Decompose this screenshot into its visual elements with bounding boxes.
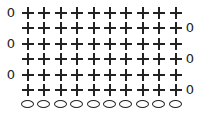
chain-stitch-icon [103, 100, 116, 108]
single-crochet-icon [169, 37, 183, 51]
single-crochet-icon [119, 52, 133, 66]
turning-chain-label: 0 [5, 68, 17, 82]
single-crochet-icon [54, 37, 68, 51]
turning-chain-label: 0 [5, 37, 17, 51]
chain-stitch-icon [119, 100, 132, 108]
single-crochet-icon [152, 52, 166, 66]
turning-chain-label: 0 [184, 83, 196, 97]
single-crochet-icon [103, 52, 117, 66]
chain-stitch-icon [152, 100, 165, 108]
single-crochet-icon [169, 68, 183, 82]
single-crochet-icon [54, 83, 68, 97]
single-crochet-icon [169, 6, 183, 20]
turning-chain-label: 0 [5, 6, 17, 20]
single-crochet-icon [21, 6, 35, 20]
chart-row: 0 [0, 83, 202, 97]
single-crochet-icon [103, 68, 117, 82]
single-crochet-icon [87, 6, 101, 20]
single-crochet-icon [119, 6, 133, 20]
single-crochet-icon [54, 68, 68, 82]
single-crochet-icon [119, 37, 133, 51]
chain-stitch-icon [37, 100, 50, 108]
single-crochet-icon [152, 37, 166, 51]
single-crochet-icon [70, 68, 84, 82]
single-crochet-icon [103, 83, 117, 97]
chart-row: 0 [0, 21, 202, 35]
single-crochet-icon [119, 83, 133, 97]
single-crochet-icon [70, 21, 84, 35]
chain-stitch-icon [70, 100, 83, 108]
chain-stitch-icon [54, 100, 67, 108]
single-crochet-icon [87, 83, 101, 97]
single-crochet-icon [70, 37, 84, 51]
single-crochet-icon [136, 52, 150, 66]
single-crochet-icon [37, 6, 51, 20]
single-crochet-icon [152, 21, 166, 35]
chain-stitch-icon [169, 100, 182, 108]
single-crochet-icon [152, 68, 166, 82]
single-crochet-icon [54, 52, 68, 66]
single-crochet-icon [169, 83, 183, 97]
single-crochet-icon [37, 83, 51, 97]
chain-stitch-icon [136, 100, 149, 108]
single-crochet-icon [37, 52, 51, 66]
single-crochet-icon [37, 68, 51, 82]
single-crochet-icon [119, 68, 133, 82]
single-crochet-icon [70, 6, 84, 20]
single-crochet-icon [21, 37, 35, 51]
chain-stitch-icon [21, 100, 34, 108]
single-crochet-icon [136, 21, 150, 35]
single-crochet-icon [37, 37, 51, 51]
chart-row: 0 [0, 6, 202, 20]
single-crochet-icon [21, 83, 35, 97]
single-crochet-icon [152, 6, 166, 20]
single-crochet-icon [103, 21, 117, 35]
single-crochet-icon [54, 21, 68, 35]
single-crochet-icon [70, 52, 84, 66]
single-crochet-icon [21, 21, 35, 35]
single-crochet-icon [136, 83, 150, 97]
chart-row: 0 [0, 68, 202, 82]
single-crochet-icon [169, 52, 183, 66]
single-crochet-icon [136, 68, 150, 82]
single-crochet-icon [21, 68, 35, 82]
single-crochet-icon [87, 52, 101, 66]
turning-chain-label: 0 [184, 21, 196, 35]
single-crochet-icon [103, 6, 117, 20]
single-crochet-icon [119, 21, 133, 35]
chain-stitch-icon [87, 100, 100, 108]
chart-row: 0 [0, 52, 202, 66]
single-crochet-icon [37, 21, 51, 35]
single-crochet-icon [103, 37, 117, 51]
single-crochet-icon [87, 21, 101, 35]
single-crochet-icon [87, 37, 101, 51]
chart-row: 0 [0, 37, 202, 51]
single-crochet-icon [87, 68, 101, 82]
single-crochet-icon [136, 37, 150, 51]
crochet-chart: 000000 [0, 0, 202, 116]
turning-chain-label: 0 [184, 52, 196, 66]
single-crochet-icon [70, 83, 84, 97]
single-crochet-icon [54, 6, 68, 20]
single-crochet-icon [169, 21, 183, 35]
single-crochet-icon [136, 6, 150, 20]
single-crochet-icon [21, 52, 35, 66]
single-crochet-icon [152, 83, 166, 97]
